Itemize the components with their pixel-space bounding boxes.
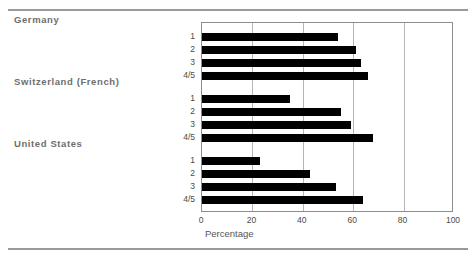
x-tick-label-80: 80 bbox=[398, 215, 407, 225]
group-label-switzerland-french: Switzerland (French) bbox=[14, 76, 119, 87]
category-tick-label: 4/5 bbox=[167, 70, 195, 80]
group-label-germany: Germany bbox=[14, 14, 59, 25]
gridline-80 bbox=[404, 23, 405, 211]
x-axis-title: Percentage bbox=[205, 228, 254, 239]
category-tick-label: 2 bbox=[167, 168, 195, 178]
x-tick-label-40: 40 bbox=[297, 215, 306, 225]
x-tick-label-0: 0 bbox=[199, 215, 204, 225]
bar bbox=[202, 72, 368, 80]
category-tick-label: 4/5 bbox=[167, 132, 195, 142]
bar bbox=[202, 95, 290, 103]
bar bbox=[202, 46, 356, 54]
group-label-united-states: United States bbox=[14, 138, 83, 149]
category-tick-label: 3 bbox=[167, 119, 195, 129]
x-tick-label-20: 20 bbox=[247, 215, 256, 225]
bar bbox=[202, 33, 338, 41]
category-tick-label: 1 bbox=[167, 93, 195, 103]
category-tick-label: 1 bbox=[167, 31, 195, 41]
x-tick-label-100: 100 bbox=[446, 215, 460, 225]
bar bbox=[202, 59, 361, 67]
top-divider-rule bbox=[8, 9, 468, 11]
category-tick-label: 1 bbox=[167, 155, 195, 165]
bar bbox=[202, 170, 310, 178]
category-tick-label: 4/5 bbox=[167, 194, 195, 204]
bar-chart-figure: GermanySwitzerland (French)United States… bbox=[0, 0, 476, 260]
bottom-divider-rule bbox=[8, 248, 468, 250]
category-tick-label: 2 bbox=[167, 44, 195, 54]
category-tick-label: 3 bbox=[167, 57, 195, 67]
bar bbox=[202, 196, 363, 204]
category-tick-label: 2 bbox=[167, 106, 195, 116]
x-tick-label-60: 60 bbox=[347, 215, 356, 225]
bar bbox=[202, 134, 373, 142]
bar bbox=[202, 108, 341, 116]
category-tick-label: 3 bbox=[167, 181, 195, 191]
bar bbox=[202, 183, 336, 191]
bar bbox=[202, 157, 260, 165]
bar bbox=[202, 121, 351, 129]
plot-area bbox=[201, 22, 453, 212]
